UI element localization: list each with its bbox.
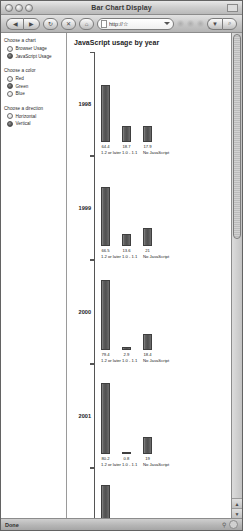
bar-value-label: 21 [145, 248, 150, 253]
chart-area: JavaScript usage by year 199864.418.717.… [67, 33, 231, 518]
chart-color-group: Choose a color Red Green Blue [4, 68, 63, 97]
go-button[interactable]: ⌕ [222, 18, 237, 30]
bar-value-label: 64.4 [101, 144, 109, 149]
reload-button[interactable]: ↻ [43, 18, 58, 30]
radio-javascript-usage[interactable]: JavaScript Usage [7, 53, 63, 59]
year-axis: 1998 [71, 52, 95, 156]
mail-icon [177, 19, 184, 28]
category-labels: 1.2 or later1.0 - 1.1No JavaScript [95, 358, 231, 363]
home-button[interactable]: ⌂ [79, 18, 94, 30]
radio-color-green[interactable]: Green [7, 83, 63, 89]
radio-icon[interactable] [7, 46, 13, 52]
bar-value-label: 18.4 [143, 352, 151, 357]
chart-year-group: 200079.42.918.41.2 or later1.0 - 1.1No J… [71, 260, 231, 364]
radio-direction-horizontal[interactable]: Horizontal [7, 113, 63, 119]
bar [143, 437, 152, 454]
year-axis: 2002 [71, 468, 95, 518]
radio-direction-vertical[interactable]: Vertical [7, 121, 63, 127]
chevron-down-icon[interactable] [164, 22, 170, 25]
status-text: Done [5, 522, 19, 528]
radio-icon-selected[interactable] [7, 83, 13, 89]
radio-icon-selected[interactable] [7, 53, 13, 59]
year-label: 1998 [79, 101, 91, 107]
bar-column: 17.9 [143, 52, 152, 142]
category-label: 1.0 - 1.1 [122, 462, 131, 467]
browser-window: Bar Chart Display ◀ ▶ ↻ ✕ ⌂ http://☆ ▼ ⌕… [0, 0, 243, 531]
bar-column: 21 [143, 156, 152, 246]
bar-group: 66.513.6211.2 or later1.0 - 1.1No JavaSc… [95, 156, 231, 260]
radio-label: JavaScript Usage [16, 54, 52, 59]
scroll-up-arrow-icon[interactable]: ▲ [232, 498, 242, 508]
bar-value-label: 13.6 [122, 248, 130, 253]
bar-column: 18.7 [122, 52, 131, 142]
radio-color-blue[interactable]: Blue [7, 91, 63, 97]
bar [143, 228, 152, 246]
category-labels: 1.2 or later1.0 - 1.1No JavaScript [95, 150, 231, 155]
vertical-scrollbar[interactable]: ▲ ▼ [231, 33, 242, 518]
category-labels: 1.2 or later1.0 - 1.1No JavaScript [95, 254, 231, 259]
forward-button[interactable]: ▶ [23, 18, 40, 30]
window-title: Bar Chart Display [1, 4, 242, 11]
search-icon[interactable]: ▼ [207, 18, 222, 30]
scrollbar-thumb[interactable] [233, 34, 241, 239]
bar-column: 0.4 [122, 468, 131, 518]
bar-value-label: 17.9 [143, 144, 151, 149]
radio-icon[interactable] [7, 76, 13, 82]
address-bar[interactable]: http://☆ [97, 18, 174, 30]
bar [122, 347, 131, 350]
bar-column: 19 [143, 364, 152, 454]
bar-group: 830.416.61.2 or later1.0 - 1.1No JavaScr… [95, 468, 231, 518]
resize-grip-icon[interactable] [229, 520, 238, 529]
bar-column: 66.5 [101, 156, 110, 246]
radio-label: Vertical [16, 121, 31, 126]
bar [101, 485, 110, 518]
nav-button-group: ◀ ▶ [6, 18, 40, 30]
scroll-down-arrow-icon[interactable]: ▼ [232, 508, 242, 518]
bar [143, 126, 152, 142]
chart-type-group: Choose a chart Browser Usage JavaScript … [4, 38, 63, 59]
bar-value-label: 2.9 [124, 352, 130, 357]
radio-label: Red [16, 76, 24, 81]
browser-toolbar: ◀ ▶ ↻ ✕ ⌂ http://☆ ▼ ⌕ [1, 15, 242, 33]
address-input[interactable]: http://☆ [109, 21, 162, 27]
scrollbar-track[interactable] [232, 240, 242, 498]
bookmark-icon [197, 19, 204, 28]
radio-color-red[interactable]: Red [7, 76, 63, 82]
bar [101, 187, 110, 246]
year-label: 2001 [79, 413, 91, 419]
radio-browser-usage[interactable]: Browser Usage [7, 46, 63, 52]
radio-icon[interactable] [7, 113, 13, 119]
category-label: No JavaScript [143, 254, 152, 259]
bar-value-label: 80.2 [101, 456, 109, 461]
bar-value-label: 18.7 [122, 144, 130, 149]
year-label: 2002 [79, 517, 91, 518]
category-label: 1.2 or later [101, 150, 110, 155]
year-axis: 2000 [71, 260, 95, 364]
page-content: Choose a chart Browser Usage JavaScript … [1, 33, 242, 518]
year-axis: 2001 [71, 364, 95, 468]
chart-direction-group: Choose a direction Horizontal Vertical [4, 106, 63, 127]
category-label: 1.0 - 1.1 [122, 254, 131, 259]
bar-value-label: 66.5 [101, 248, 109, 253]
chart-year-group: 200180.20.8191.2 or later1.0 - 1.1No Jav… [71, 364, 231, 468]
category-label: No JavaScript [143, 358, 152, 363]
back-button[interactable]: ◀ [6, 18, 23, 30]
bar [101, 85, 110, 142]
bar-value-label: 79.4 [101, 352, 109, 357]
category-label: 1.0 - 1.1 [122, 358, 131, 363]
category-label: 1.0 - 1.1 [122, 150, 131, 155]
search-button-group: ▼ ⌕ [207, 18, 237, 30]
chart-color-group-label: Choose a color [4, 68, 63, 73]
year-label: 1999 [79, 205, 91, 211]
radio-icon-selected[interactable] [7, 121, 13, 127]
secure-icon: ⚲ [222, 521, 226, 528]
year-label: 2000 [79, 309, 91, 315]
title-bar[interactable]: Bar Chart Display [1, 1, 242, 15]
stop-button[interactable]: ✕ [61, 18, 76, 30]
radio-icon[interactable] [7, 91, 13, 97]
category-label: 1.2 or later [101, 254, 110, 259]
chart-title: JavaScript usage by year [74, 39, 231, 46]
category-label: No JavaScript [143, 462, 152, 467]
year-axis: 1999 [71, 156, 95, 260]
chart-options-sidebar: Choose a chart Browser Usage JavaScript … [1, 33, 67, 518]
